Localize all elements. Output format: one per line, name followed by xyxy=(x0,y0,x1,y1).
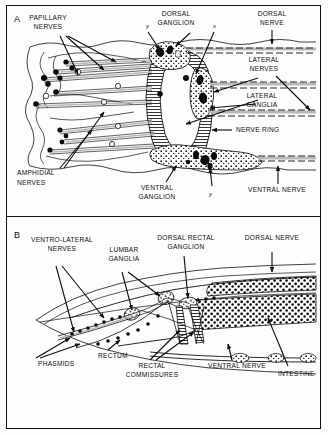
label-dorsal-ganglion: DORSALGANGLION xyxy=(158,10,195,26)
panel-a-label: A xyxy=(14,14,20,24)
label-ventral-ganglion: VENTRALGANGLION xyxy=(139,184,176,200)
panel-b-label: B xyxy=(14,230,20,240)
head-outline xyxy=(25,47,34,166)
head-inner-lobe-2 xyxy=(36,104,45,164)
label-lumbar-ganglia: LUMBARGANGLIA xyxy=(108,246,139,262)
panel-a-drawing xyxy=(25,30,316,186)
lateral-nerve-cord-upper xyxy=(210,82,316,88)
panel-b-drawing xyxy=(36,252,316,374)
marker-x-dorsal: x xyxy=(212,23,217,29)
marker-y-ventral: y xyxy=(208,191,213,197)
ventral-nerve-b xyxy=(150,352,316,363)
label-papillary-nerves: PAPILLARYNERVES xyxy=(29,14,67,30)
label-nerve-ring: NERVE RING xyxy=(236,126,279,133)
ventral-ganglion xyxy=(150,145,262,170)
label-amphidial-nerves: AMPHIDIALNERVES xyxy=(17,169,55,186)
dorsal-ganglion xyxy=(149,42,190,70)
label-intestine: INTESTINE xyxy=(278,370,315,377)
ventral-nerve-cord xyxy=(258,156,316,161)
intestine-upper xyxy=(207,276,316,296)
label-dorsal-nerve-b: DORSAL NERVE xyxy=(245,234,300,241)
intestine-lower xyxy=(194,294,316,330)
label-rectal-commissures: RECTALCOMMISSURES xyxy=(126,362,179,378)
label-rectum: RECTUM xyxy=(98,352,128,359)
figure-canvas: A PAPILLARYNERVES DORSALGANGLION DORSALN… xyxy=(0,0,328,435)
label-ventro-lateral-nerves: VENTRO-LATERALNERVES xyxy=(31,236,93,252)
label-phasmids: PHASMIDS xyxy=(38,360,75,367)
figure-page: A PAPILLARYNERVES DORSALGANGLION DORSALN… xyxy=(0,0,328,435)
label-ventral-nerve: VENTRAL NERVE xyxy=(248,186,306,193)
marker-y-dorsal: y xyxy=(145,23,150,29)
head-inner-lobe-3 xyxy=(53,56,61,94)
pharynx-mid-left-2 xyxy=(50,112,134,120)
label-dorsal-rectal-ganglion: DORSAL RECTALGANGLION xyxy=(157,234,215,250)
label-dorsal-nerve: DORSALNERVE xyxy=(258,10,287,26)
label-lateral-ganglia: LATERALGANGLIA xyxy=(246,92,277,108)
label-ventral-nerve-b: VENTRAL NERVE xyxy=(208,362,266,369)
label-lateral-nerves: LATERALNERVES xyxy=(249,56,280,72)
